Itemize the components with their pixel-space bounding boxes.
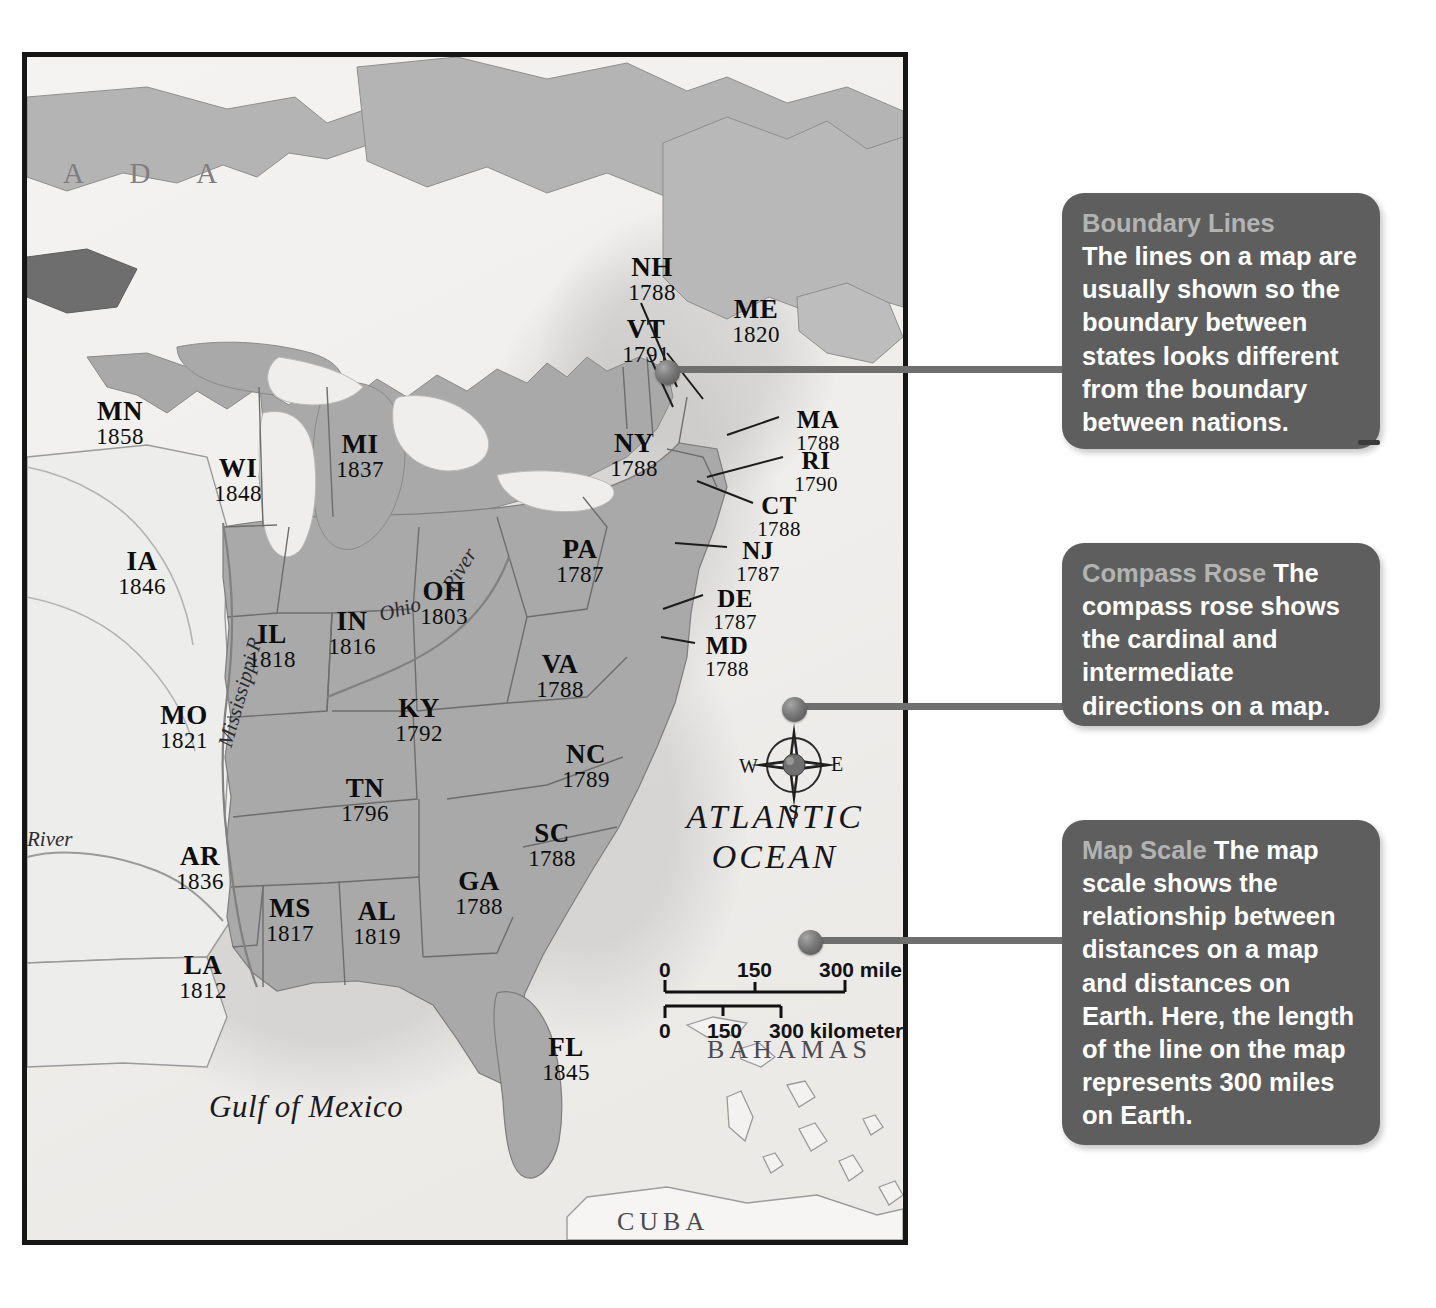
map-scale-bar: 0 150 300 miles 0 150 300 kilometers [659, 962, 903, 1047]
scale-km-tick-0: 0 [659, 1019, 671, 1043]
map-frame: A D A ATLANTIC OCEAN Gulf of Mexico BAHA… [22, 52, 908, 1245]
leader-knob-map-scale [798, 930, 823, 955]
compass-label-south: S [788, 801, 799, 824]
callout-compass-rose: Compass Rose The compass rose shows the … [1062, 543, 1380, 726]
scale-km-tick-150: 150 [707, 1019, 742, 1043]
callout-heading-boundary-lines: Boundary Lines [1082, 209, 1275, 237]
scale-miles-tick-0: 0 [659, 958, 671, 982]
callout-map-scale: Map Scale The map scale shows the relati… [1062, 820, 1380, 1145]
map-geometry [27, 57, 903, 1240]
callout-corner-tick [1358, 440, 1380, 445]
callout-boundary-lines: Boundary Lines The lines on a map are us… [1062, 193, 1380, 449]
callout-heading-compass-rose: Compass Rose [1082, 559, 1273, 587]
map-canvas: A D A ATLANTIC OCEAN Gulf of Mexico BAHA… [27, 57, 903, 1240]
leader-line-compass-rose [800, 703, 1072, 710]
callout-heading-map-scale: Map Scale [1082, 836, 1214, 864]
scale-miles-tick-300: 300 miles [819, 958, 903, 982]
leader-knob-compass-rose [782, 697, 807, 722]
scale-km-tick-300: 300 kilometers [769, 1019, 903, 1043]
leader-line-boundary-lines [674, 366, 1072, 373]
compass-label-east: E [831, 753, 843, 776]
leader-line-map-scale [818, 937, 1072, 944]
leader-knob-boundary-lines [655, 360, 680, 385]
callout-body-boundary-lines: The lines on a map are usually shown so … [1082, 242, 1357, 436]
compass-label-west: W [739, 755, 758, 778]
callout-body-map-scale: The map scale shows the relationship bet… [1082, 836, 1354, 1129]
scale-miles-tick-150: 150 [737, 958, 772, 982]
